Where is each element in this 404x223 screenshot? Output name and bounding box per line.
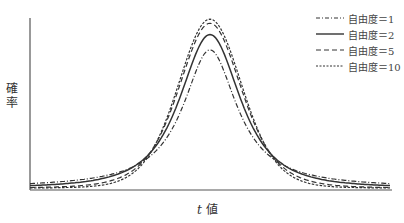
legend-item: 自由度＝1	[316, 10, 401, 26]
legend-item: 自由度＝10	[316, 58, 401, 74]
legend: 自由度＝1 自由度＝2 自由度＝5 自由度＝10	[316, 10, 401, 74]
x-axis-label: t 値	[197, 200, 218, 217]
t-distribution-chart: 確率 t 値 自由度＝1 自由度＝2 自由度＝5 自由度＝10	[0, 0, 404, 223]
y-axis-label: 確率	[6, 82, 20, 110]
legend-item: 自由度＝2	[316, 26, 401, 42]
legend-item: 自由度＝5	[316, 42, 401, 58]
